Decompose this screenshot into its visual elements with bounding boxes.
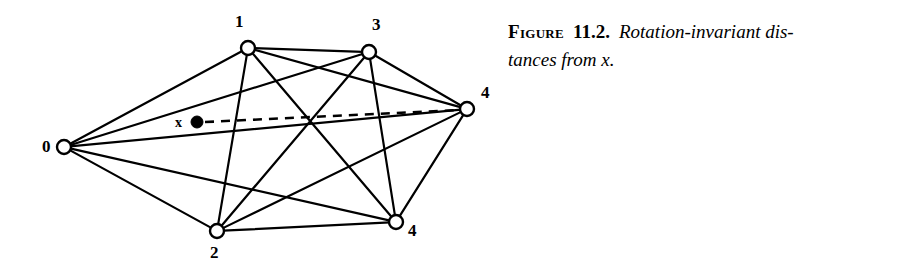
caption-line-1: Figure11.2.Rotation-invariant dis-: [508, 18, 900, 46]
figure-container: 013442x Figure11.2.Rotation-invariant di…: [0, 0, 913, 279]
query-point-label: x: [175, 116, 182, 130]
graph-node-label: 1: [235, 13, 244, 30]
graph-edge: [252, 53, 392, 218]
graph-edge: [399, 114, 464, 217]
graph-edge: [374, 55, 462, 106]
dashed-distance-line-layer: [205, 110, 460, 122]
caption-text-line-2: tances from x.: [508, 49, 614, 70]
caption-figure-number: 11.2.: [573, 21, 610, 42]
figure-caption: Figure11.2.Rotation-invariant dis- tance…: [508, 18, 900, 74]
graph-node[interactable]: [241, 41, 255, 55]
query-point-layer: [191, 116, 203, 128]
caption-text-line-1: Rotation-invariant dis-: [619, 21, 794, 42]
graph-node-label: 4: [481, 84, 490, 101]
graph-edge: [370, 58, 395, 216]
graph-node[interactable]: [460, 102, 474, 116]
graph-diagram-panel: 013442x: [0, 0, 510, 279]
graph-node[interactable]: [362, 45, 376, 59]
caption-figure-word: Figure: [508, 21, 564, 42]
query-point-marker[interactable]: [191, 116, 203, 128]
graph-node[interactable]: [57, 140, 71, 154]
graph-node-label: 0: [42, 138, 51, 155]
graph-canvas: [0, 0, 510, 279]
graph-edge: [223, 222, 390, 230]
graph-node-label: 2: [210, 244, 219, 261]
graph-node[interactable]: [210, 224, 224, 238]
graph-edge: [69, 51, 242, 144]
graph-node-label: 4: [408, 222, 417, 239]
graph-node-label: 3: [372, 16, 381, 33]
edge-layer: [69, 48, 464, 231]
graph-edge: [69, 150, 211, 228]
graph-edge: [254, 48, 363, 52]
graph-node[interactable]: [389, 215, 403, 229]
dashed-distance-line: [205, 110, 460, 122]
caption-line-2: tances from x.: [508, 46, 900, 74]
